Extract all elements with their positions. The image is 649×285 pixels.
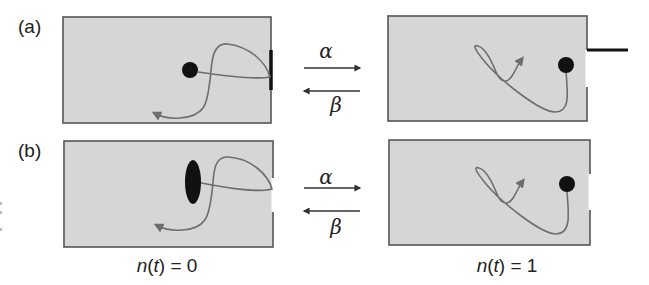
particle-circle xyxy=(558,57,574,73)
rate-arrows-a: α β xyxy=(304,39,360,117)
panel-label-a: (a) xyxy=(18,16,41,37)
two-state-channel-diagram: (a) α β (b) xyxy=(0,0,649,285)
box-b-open-state xyxy=(389,140,590,245)
particle-circle xyxy=(182,62,198,78)
state-label-n1: n(t) = 1 xyxy=(477,255,538,276)
rate-arrows-b: α β xyxy=(304,165,360,239)
box-b-closed-state xyxy=(64,141,273,247)
box-a-open-state xyxy=(388,16,628,121)
backward-rate-beta: β xyxy=(329,93,342,117)
forward-rate-alpha: α xyxy=(319,165,333,189)
row-a: (a) α β xyxy=(18,16,628,123)
chamber-box xyxy=(63,17,271,123)
backward-rate-beta: β xyxy=(329,215,342,239)
chamber-box xyxy=(388,16,587,121)
box-a-closed-state xyxy=(63,17,271,123)
state-label-n0: n(t) = 0 xyxy=(137,255,198,276)
scan-artifact-marks xyxy=(0,202,2,231)
chamber-box xyxy=(389,140,590,245)
row-b: (b) α β xyxy=(18,140,590,247)
forward-rate-alpha: α xyxy=(319,39,333,63)
panel-label-b: (b) xyxy=(18,140,41,161)
particle-ellipse xyxy=(185,160,201,204)
particle-circle xyxy=(559,176,575,192)
chamber-box xyxy=(64,141,273,247)
